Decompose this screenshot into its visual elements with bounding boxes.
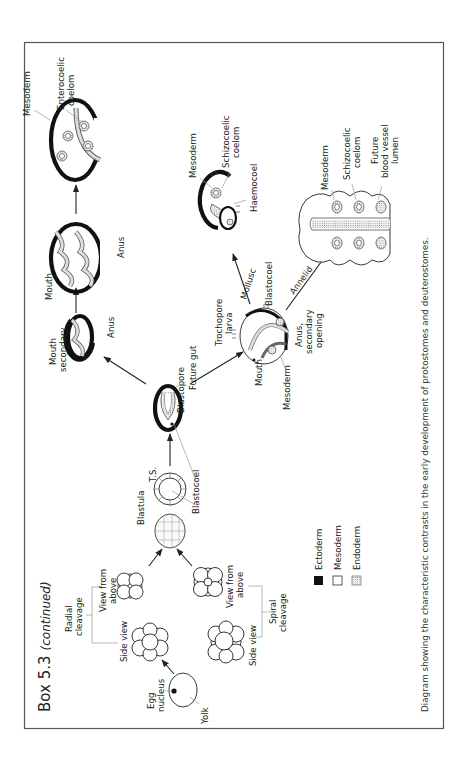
deuterostome-early bbox=[65, 316, 93, 360]
label-mesoderm-troch: Mesoderm bbox=[282, 365, 292, 410]
label-spiral-cleavage-2: cleavage bbox=[278, 593, 288, 632]
blastula-cross-section bbox=[154, 473, 186, 505]
label-mouth-secondary: Mouth bbox=[48, 338, 58, 365]
legend-item-endoderm: Endoderm bbox=[352, 526, 362, 585]
label-mesoderm-ann: Mesoderm bbox=[320, 145, 330, 190]
label-future-bv-2: blood vessel bbox=[380, 124, 390, 178]
label-trochophore: Trochopore bbox=[214, 299, 224, 347]
label-side-view-radial: Side view bbox=[119, 621, 129, 662]
label-future-gut: Future gut bbox=[188, 345, 198, 390]
legend-label-endoderm: Endoderm bbox=[352, 526, 362, 570]
label-mollusc: Mollusc bbox=[238, 267, 258, 301]
label-enterocoelic: Enterocoelic bbox=[56, 57, 66, 110]
ectoderm-swatch bbox=[314, 576, 323, 585]
figure-caption: Diagram showing the characteristic contr… bbox=[420, 237, 430, 712]
label-enterocoelic-2: coelom bbox=[66, 75, 76, 106]
label-annelid: Annelid bbox=[288, 264, 315, 296]
label-haemocoel: Haemocoel bbox=[249, 164, 259, 212]
label-anus-secondary: Anus, bbox=[294, 323, 304, 347]
label-schizocoelic-ann-2: coelom bbox=[352, 137, 362, 168]
label-yolk: Yolk bbox=[200, 707, 210, 725]
label-blastocoel-1: Blastocoel bbox=[191, 470, 201, 514]
blastula bbox=[155, 514, 185, 548]
label-mesoderm-moll: Mesoderm bbox=[188, 133, 198, 178]
label-blastocoel-2: Blastocoel bbox=[264, 262, 274, 306]
endoderm-swatch bbox=[352, 576, 361, 585]
label-schizocoelic-moll: Schizocoelic bbox=[221, 115, 231, 168]
label-mouth-secondary-2: secondary bbox=[58, 327, 68, 372]
label-schizocoelic-ann: Schizocoelic bbox=[342, 127, 352, 180]
legend-label-ectoderm: Ectoderm bbox=[314, 529, 324, 570]
label-blastula: Blastula bbox=[136, 491, 146, 526]
annelid-segment bbox=[299, 191, 390, 265]
label-future-bv-3: lumen bbox=[390, 137, 400, 164]
label-radial-cleavage-2: cleavage bbox=[74, 597, 84, 636]
legend-label-mesoderm: Mesoderm bbox=[333, 525, 343, 570]
legend-item-ectoderm: Ectoderm bbox=[314, 529, 324, 585]
label-view-from-above-radial-2: above bbox=[108, 578, 118, 604]
label-view-from-above-radial: View from bbox=[98, 569, 108, 612]
label-spiral-cleavage: Spiral bbox=[268, 600, 278, 625]
legend: Ectoderm Mesoderm Endoderm bbox=[314, 525, 362, 585]
mollusc-larva bbox=[200, 171, 240, 229]
label-anus-secondary-2: secondary bbox=[304, 309, 314, 354]
deuterostome-enterocoelic bbox=[51, 100, 104, 180]
label-schizocoelic-moll-2: coelom bbox=[231, 127, 241, 158]
label-anus-1: Anus bbox=[106, 316, 116, 338]
label-mouth-troch: Mouth bbox=[254, 359, 264, 386]
trochophore-larva bbox=[232, 304, 288, 364]
label-mouth-2: Mouth bbox=[44, 273, 54, 300]
spiral-side-view bbox=[208, 621, 244, 663]
label-view-from-above-spiral: View from bbox=[225, 565, 235, 608]
radial-top-view bbox=[117, 573, 143, 599]
label-radial-cleavage: Radial bbox=[64, 605, 74, 632]
label-egg-nucleus: Egg bbox=[146, 693, 156, 709]
box-title: Box 5.3(continued) bbox=[36, 581, 54, 712]
label-side-view-spiral: Side view bbox=[248, 625, 258, 666]
egg bbox=[169, 673, 199, 707]
spiral-top-view bbox=[194, 568, 223, 597]
label-ts: T.S. bbox=[148, 467, 158, 483]
label-anus-2: Anus bbox=[116, 236, 126, 258]
label-anus-secondary-3: opening bbox=[314, 313, 324, 348]
label-blastopore: Blastopore bbox=[176, 367, 186, 413]
label-future-bv: Future bbox=[370, 137, 380, 164]
label-mesoderm-deut: Mesoderm bbox=[22, 71, 32, 116]
label-view-from-above-spiral-2: above bbox=[235, 572, 245, 598]
label-egg-nucleus-2: nucleus bbox=[156, 678, 166, 712]
radial-side-view bbox=[132, 623, 168, 661]
legend-item-mesoderm: Mesoderm bbox=[333, 525, 343, 585]
deuterostome-mid bbox=[51, 224, 108, 292]
diagram-canvas: Box 5.3(continued) Diagram showing the c… bbox=[0, 0, 460, 764]
mesoderm-swatch bbox=[333, 576, 342, 585]
label-trochophore-2: larva bbox=[224, 312, 234, 334]
